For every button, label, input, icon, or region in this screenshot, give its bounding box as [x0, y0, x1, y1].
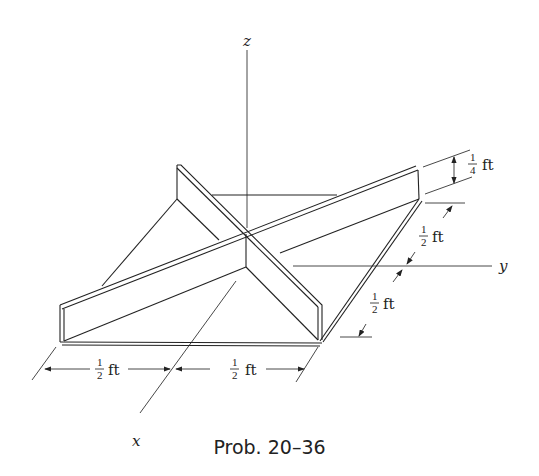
dim-height-label: 1 4 ft: [468, 151, 494, 176]
svg-text:1: 1: [421, 223, 427, 235]
svg-text:2: 2: [372, 303, 378, 315]
svg-text:4: 4: [470, 164, 476, 176]
svg-text:ft: ft: [383, 295, 395, 313]
z-axis-label: z: [242, 32, 251, 50]
svg-text:ft: ft: [108, 361, 120, 379]
svg-text:ft: ft: [482, 156, 494, 174]
figure-caption: Prob. 20–36: [0, 436, 539, 458]
dim-bottom-left-label: 1 2 ft: [95, 356, 120, 381]
svg-text:2: 2: [232, 369, 238, 381]
svg-text:1: 1: [97, 356, 103, 368]
svg-text:ft: ft: [245, 361, 257, 379]
svg-text:ft: ft: [432, 228, 444, 246]
dim-side-lower-label: 1 2 ft: [370, 290, 395, 315]
svg-text:1: 1: [372, 290, 378, 302]
dim-bottom-right-label: 1 2 ft: [230, 356, 257, 381]
x-axis: [140, 281, 236, 413]
svg-text:1: 1: [470, 151, 476, 163]
dim-side-upper-label: 1 2 ft: [419, 223, 444, 248]
diagram-canvas: z y x 1 4 ft 1 2 ft 1 2 ft 1 2 ft 1 2 ft: [0, 0, 539, 476]
svg-text:2: 2: [97, 369, 103, 381]
dimension-arrows: [45, 157, 454, 369]
y-axis-label: y: [498, 257, 508, 275]
svg-text:2: 2: [421, 236, 427, 248]
plate-long: [60, 166, 419, 342]
svg-text:1: 1: [232, 356, 238, 368]
